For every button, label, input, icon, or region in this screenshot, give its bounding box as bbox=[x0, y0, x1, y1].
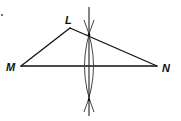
segment-ln bbox=[70, 28, 157, 66]
label-n: N bbox=[162, 62, 171, 74]
stray-mark bbox=[1, 14, 3, 16]
label-l: L bbox=[65, 14, 72, 26]
segment-lm bbox=[21, 28, 70, 66]
top-intersection-point bbox=[88, 34, 91, 37]
label-m: M bbox=[6, 61, 16, 73]
construction-diagram: L M N bbox=[0, 0, 181, 121]
bottom-intersection-point bbox=[88, 99, 90, 101]
